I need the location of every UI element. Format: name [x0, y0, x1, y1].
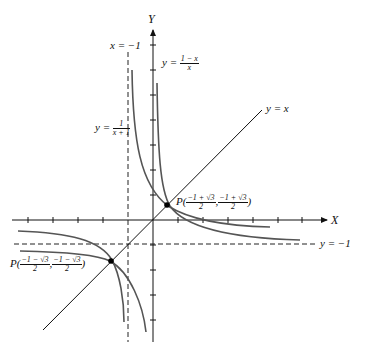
x-axis-label: X	[331, 213, 338, 228]
frac-den: x	[180, 64, 199, 72]
label-asymptote-y: y = −1	[320, 238, 351, 249]
point-p-lower	[108, 258, 114, 264]
point-name: P	[10, 257, 17, 269]
paren: )	[82, 257, 86, 269]
label-point-p-lower: P(−1 − √32,−1 − √32)	[10, 256, 85, 273]
label-asymptote-x: x = −1	[110, 40, 141, 51]
curve-label-lhs: y =	[95, 121, 110, 133]
frac-den: 2	[20, 265, 49, 273]
paren: )	[248, 195, 252, 207]
frac-den: 2	[52, 265, 81, 273]
label-line-y-x: y = x	[266, 103, 289, 114]
label-point-p-upper: P(−1 + √32,−1 + √32)	[176, 194, 251, 211]
curve-label-lhs: y =	[162, 56, 177, 68]
diagram-canvas	[0, 0, 366, 351]
y-axis-label: Y	[148, 12, 155, 27]
label-curve-1-minus-x-over-x: y = 1 − xx	[162, 55, 199, 72]
frac-den: x + 1	[113, 129, 130, 137]
point-name: P	[176, 195, 183, 207]
frac-den: 2	[186, 203, 215, 211]
curve-1-over-x-plus-1-lower	[18, 231, 124, 322]
point-p-upper	[164, 202, 170, 208]
x-axis	[12, 217, 327, 223]
frac-den: 2	[218, 203, 247, 211]
label-curve-1-over-x-plus-1: y = 1x + 1	[95, 120, 130, 137]
